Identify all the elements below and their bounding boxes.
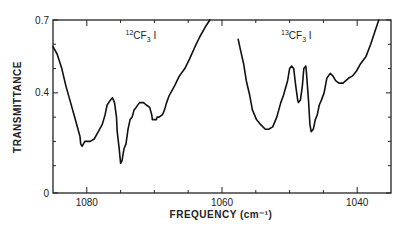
series-annotations: 12CF3 I13CF3 I <box>126 29 312 43</box>
series-line-12CF3I <box>53 20 210 163</box>
series-label: 13CF3 I <box>281 29 312 43</box>
plot-axes <box>53 20 391 193</box>
x-tick-label: 1060 <box>211 197 234 208</box>
y-tick-label: 0.7 <box>35 15 49 26</box>
x-axis-title: FREQUENCY (cm⁻¹) <box>170 209 273 220</box>
axis-ticks <box>53 20 391 193</box>
x-tick-label: 1040 <box>346 197 369 208</box>
data-series <box>53 20 379 163</box>
y-tick-label: 0.4 <box>35 87 49 98</box>
x-tick-label: 1080 <box>76 197 99 208</box>
y-axis-title: TRANSMITTANCE <box>12 61 23 153</box>
plot-frame <box>53 20 391 193</box>
transmittance-chart: 10801060104000.40.7 12CF3 I13CF3 I TRANS… <box>0 0 407 233</box>
y-tick-label: 0 <box>43 188 49 199</box>
series-label: 12CF3 I <box>126 29 157 43</box>
